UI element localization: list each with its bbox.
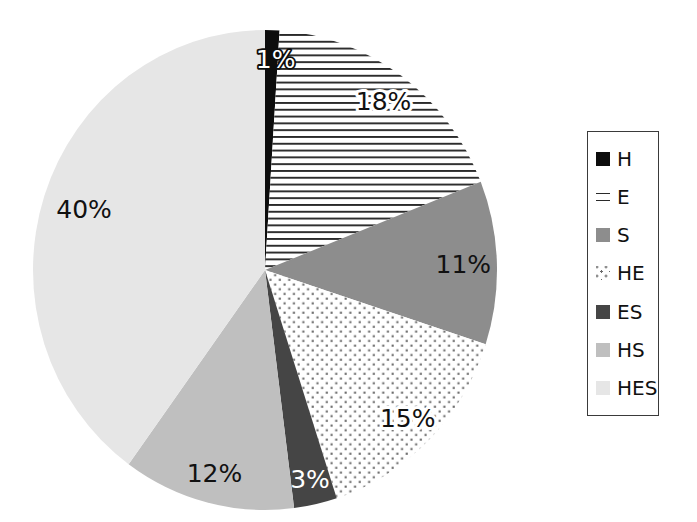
pie-slices xyxy=(33,30,497,510)
legend-label-h: H xyxy=(617,149,632,169)
slice-label-s: 11% xyxy=(436,250,492,279)
legend-label-hes: HES xyxy=(617,378,657,398)
slice-label-hs: 12% xyxy=(187,459,243,488)
chart-container: 1%18%11%15%3%12%40% H E S HE ES HS HE xyxy=(0,0,697,522)
legend-swatch-h xyxy=(596,152,610,166)
legend-swatch-e xyxy=(596,190,610,204)
legend-label-he: HE xyxy=(617,263,645,283)
legend-swatch-s xyxy=(596,228,610,242)
slice-label-he: 15% xyxy=(380,404,436,433)
legend: H E S HE ES HS HES xyxy=(587,131,659,416)
legend-swatch-he xyxy=(596,266,610,280)
slice-label-es: 3% xyxy=(290,465,330,494)
legend-label-hs: HS xyxy=(617,340,645,360)
legend-label-s: S xyxy=(617,225,630,245)
legend-swatch-hs xyxy=(596,343,610,357)
legend-item-h: H xyxy=(596,149,654,169)
slice-label-hes: 40% xyxy=(56,195,112,224)
legend-swatch-es xyxy=(596,305,610,319)
legend-item-es: ES xyxy=(596,302,654,322)
legend-swatch-hes xyxy=(596,381,610,395)
legend-item-he: HE xyxy=(596,263,654,283)
legend-item-hs: HS xyxy=(596,340,654,360)
legend-label-es: ES xyxy=(617,302,642,322)
legend-label-e: E xyxy=(617,187,630,207)
slice-label-e: 18% xyxy=(356,87,412,116)
slice-label-h: 1% xyxy=(256,45,296,74)
legend-item-hes: HES xyxy=(596,378,654,398)
legend-item-e: E xyxy=(596,187,654,207)
legend-item-s: S xyxy=(596,225,654,245)
